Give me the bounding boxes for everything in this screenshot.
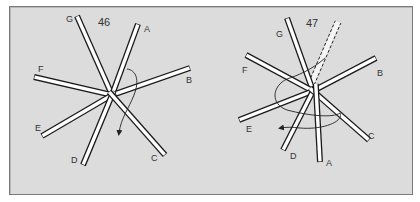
ghost-stick-a-original-position	[311, 22, 338, 84]
stick-c	[109, 92, 165, 155]
stick-label-g: G	[66, 14, 73, 24]
stick-label-e: E	[35, 123, 41, 133]
stick-label-f: F	[242, 65, 248, 75]
stick-diagram: GAFBEDC46GFBEDCA47	[0, 0, 420, 202]
stick-label-b: B	[186, 75, 192, 85]
stick-label-a: A	[144, 24, 150, 34]
figure-46: GAFBEDC46	[34, 14, 192, 165]
stick-label-e: E	[246, 124, 252, 134]
stick-label-c: C	[368, 131, 375, 141]
stick-label-a: A	[326, 158, 332, 168]
stick-label-d: D	[290, 151, 297, 161]
stick-label-b: B	[377, 68, 383, 78]
stick-label-c: C	[151, 153, 158, 163]
stick-a-moved	[316, 84, 320, 162]
stick-label-f: F	[38, 64, 44, 74]
stick-label-d: D	[71, 155, 78, 165]
stick-label-g: G	[276, 29, 283, 39]
figure-number: 46	[98, 16, 110, 28]
figure-number: 47	[306, 17, 318, 29]
figure-47: GFBEDCA47	[239, 17, 383, 168]
